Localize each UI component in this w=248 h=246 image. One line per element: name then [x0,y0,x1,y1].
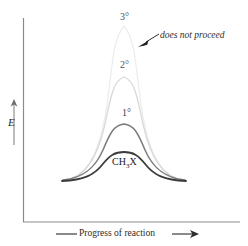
annotation-label: does not proceed [160,31,225,41]
xlabel-right-arrow [172,230,199,238]
x-axis-label: Progress of reaction [79,229,155,239]
annotation-arrow [138,34,159,47]
curve-label-primary: 1° [122,108,131,118]
curve-label-secondary: 2° [120,60,129,70]
energy-diagram-figure: 3° 2° 1° CH3X does not proceed E Progres… [0,0,248,246]
methyl-prefix: CH [112,156,126,167]
methyl-suffix: X [129,156,136,167]
y-axis-label: E [8,117,15,128]
curve-label-tertiary: 3° [120,12,129,22]
curve-label-methyl: CH3X [112,157,137,170]
